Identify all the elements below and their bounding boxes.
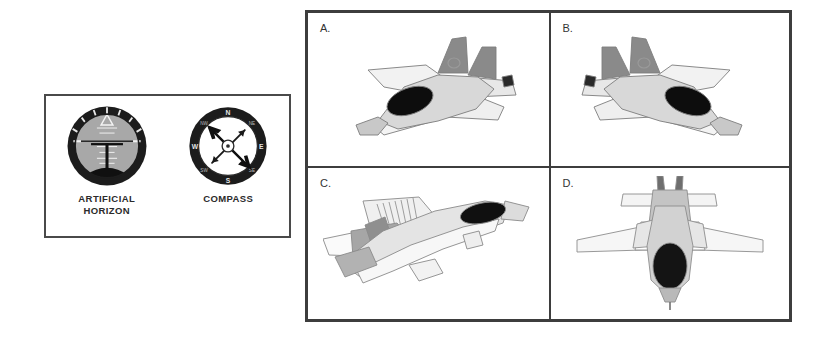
option-cell-c[interactable]: C. <box>308 166 549 319</box>
jet-figure-b <box>551 13 790 166</box>
instrument-row: ARTIFICIAL HORIZON N E S W <box>46 96 289 236</box>
compass-label-w: W <box>192 143 199 150</box>
artificial-horizon-caption: ARTIFICIAL HORIZON <box>78 193 135 216</box>
artificial-horizon-caption-line2: HORIZON <box>83 205 130 216</box>
artificial-horizon-instrument: ARTIFICIAL HORIZON <box>65 104 149 216</box>
compass-label-sw: SW <box>201 168 209 173</box>
compass-label-n: N <box>226 109 231 116</box>
compass-caption: COMPASS <box>203 193 253 205</box>
artificial-horizon-icon <box>65 104 149 188</box>
option-cell-b[interactable]: B. <box>549 13 790 166</box>
option-cell-a[interactable]: A. <box>308 13 549 166</box>
jet-figure-d <box>551 168 790 319</box>
option-cell-d[interactable]: D. <box>549 166 790 319</box>
aircraft-icon-c <box>323 179 533 309</box>
aircraft-icon-a <box>326 25 531 155</box>
option-grid: A. <box>305 10 792 322</box>
artificial-horizon-dial <box>65 104 149 188</box>
option-label-c: C. <box>320 177 331 189</box>
compass-icon: N E S W NE SE SW NW <box>186 104 270 188</box>
option-label-a: A. <box>320 22 330 34</box>
aircraft-icon-d <box>567 176 772 311</box>
compass-label-s: S <box>226 177 231 184</box>
artificial-horizon-caption-line1: ARTIFICIAL <box>78 193 135 204</box>
compass-instrument: N E S W NE SE SW NW <box>186 104 270 205</box>
compass-caption-line1: COMPASS <box>203 193 253 204</box>
compass-dial: N E S W NE SE SW NW <box>186 104 270 188</box>
compass-label-e: E <box>259 143 264 150</box>
aircraft-icon-b <box>567 25 772 155</box>
compass-label-ne: NE <box>249 121 255 126</box>
jet-figure-c <box>308 168 549 319</box>
instrument-panel: ARTIFICIAL HORIZON N E S W <box>44 94 291 238</box>
option-label-d: D. <box>563 177 574 189</box>
jet-figure-a <box>308 13 549 166</box>
option-label-b: B. <box>563 22 573 34</box>
compass-label-nw: NW <box>200 121 208 126</box>
